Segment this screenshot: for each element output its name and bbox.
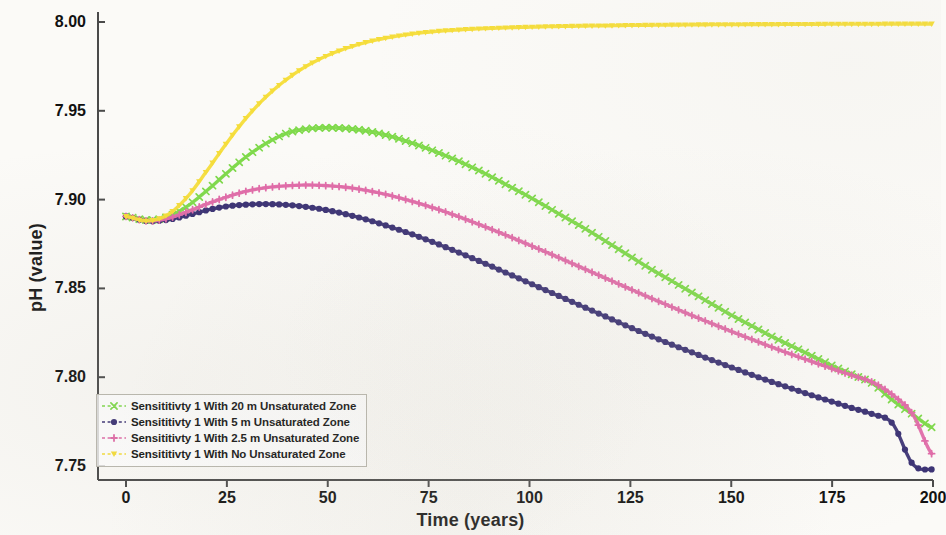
series-3 [123, 22, 935, 224]
legend-marker-+-icon [101, 431, 127, 445]
legend-label-3: Sensititivty 1 With No Unsaturated Zone [131, 448, 346, 460]
legend-label-0: Sensititivty 1 With 20 m Unsaturated Zon… [131, 400, 356, 412]
legend-item-2[interactable]: Sensititivty 1 With 2.5 m Unsaturated Zo… [101, 430, 359, 446]
legend-marker-o-icon [101, 415, 127, 429]
legend-item-3[interactable]: Sensititivty 1 With No Unsaturated Zone [101, 446, 359, 462]
legend-label-1: Sensititivty 1 With 5 m Unsaturated Zone [131, 416, 350, 428]
legend-item-0[interactable]: Sensititivty 1 With 20 m Unsaturated Zon… [101, 398, 359, 414]
legend-marker-v-icon [101, 447, 127, 461]
legend-item-1[interactable]: Sensititivty 1 With 5 m Unsaturated Zone [101, 414, 359, 430]
legend-label-2: Sensititivty 1 With 2.5 m Unsaturated Zo… [131, 432, 359, 444]
legend-marker-x-icon [101, 399, 127, 413]
chart-legend: Sensititivty 1 With 20 m Unsaturated Zon… [96, 394, 367, 467]
series-0 [123, 125, 935, 431]
